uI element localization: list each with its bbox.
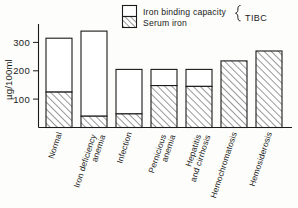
legend-swatch-iron-binding-capacity (123, 6, 137, 17)
category-label-pernicious-anemia: Pernicious anemia (146, 130, 177, 177)
bar-segment-serum-iron (151, 86, 177, 128)
legend-label-serum-iron: Serum iron (143, 18, 187, 28)
bar-segment-serum-iron (256, 51, 282, 128)
category-label-hemosiderosis: Hemosiderosis (247, 131, 274, 188)
bar-group-pernicious-anemia[interactable] (151, 69, 177, 127)
bar-group-hemosiderosis[interactable] (256, 51, 282, 128)
bar-group-normal[interactable] (46, 38, 72, 127)
bar-segment-serum-iron (46, 92, 72, 127)
bar-segment-capacity (186, 69, 212, 86)
x-axis-category-labels: Normal Iron deficiency anemia Infection … (46, 130, 274, 199)
bar-group-infection[interactable] (116, 69, 142, 127)
bar-segment-serum-iron (116, 114, 142, 128)
bar-group-iron-deficiency-anemia[interactable] (81, 31, 107, 127)
bar-segment-capacity (116, 69, 142, 114)
bar-segment-capacity (81, 31, 107, 116)
legend-label-iron-binding-capacity: Iron binding capacity (143, 7, 227, 17)
y-tick-label-300: 300 (13, 37, 30, 48)
chart-container: 300 200 100 µg/100ml (0, 0, 298, 208)
bar-segment-capacity (46, 38, 72, 92)
y-axis-title: µg/100ml (3, 59, 14, 100)
category-label-infection: Infection (114, 130, 134, 164)
legend-swatch-serum-iron (123, 17, 137, 28)
y-tick-label-100: 100 (13, 94, 30, 105)
bar-segment-serum-iron (186, 86, 212, 127)
y-tick-label-200: 200 (13, 65, 30, 76)
bar-segment-capacity (151, 69, 177, 85)
tibc-label: TIBC (245, 13, 267, 23)
legend: Iron binding capacity Serum iron TIBC (123, 6, 268, 29)
bar-group-hemochromatosis[interactable] (221, 61, 247, 128)
category-label-iron-deficiency-anemia: Iron deficiency anemia (71, 130, 107, 191)
bar-segment-serum-iron (221, 61, 247, 128)
tibc-brace (236, 6, 241, 21)
category-label-normal: Normal (46, 131, 64, 160)
bar-segment-serum-iron (81, 116, 107, 127)
iron-studies-bar-chart: 300 200 100 µg/100ml (0, 0, 298, 208)
y-axis-ticks: 300 200 100 (13, 37, 38, 105)
bar-group-hepatitis-and-cirrhosis[interactable] (186, 69, 212, 127)
category-label-hemochromatosis: Hemochromatosis (208, 131, 239, 200)
category-label-hepatitis-and-cirrhosis: Hepatitis and cirrhosis (179, 131, 212, 183)
